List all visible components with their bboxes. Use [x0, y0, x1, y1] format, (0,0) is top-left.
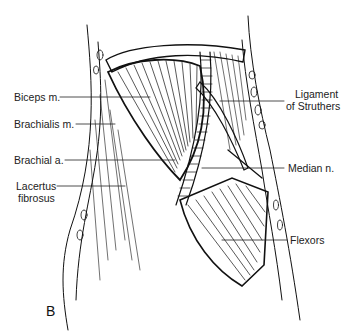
panel-letter: B [46, 303, 55, 319]
label-brachial-artery: Brachial a. [14, 154, 64, 166]
label-brachialis: Brachialis m. [14, 118, 74, 130]
label-lacertus-line2: fibrosus [18, 192, 55, 204]
arm-outline [63, 16, 300, 330]
label-lacertus-line1: Lacertus [16, 180, 56, 192]
label-median-nerve: Median n. [288, 162, 334, 174]
skin-flap [106, 45, 245, 72]
fat-nodules [77, 50, 283, 240]
label-flexors: Flexors [290, 234, 324, 246]
label-struthers-line1: Ligament [295, 88, 338, 100]
median-nerve [228, 150, 262, 178]
label-struthers-line2: of Struthers [286, 100, 340, 112]
label-biceps: Biceps m. [14, 91, 60, 103]
struthers-ligament [196, 82, 248, 170]
flexors-muscle [180, 178, 268, 286]
